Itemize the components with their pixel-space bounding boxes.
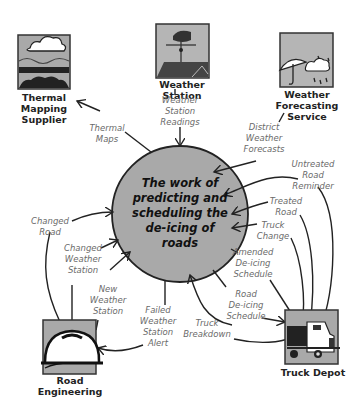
entity-weather-forecasting-service: Weather Forecasting Service (270, 89, 344, 122)
umbrella-rain-icon (280, 33, 333, 87)
landscape-clouds-icon (18, 35, 70, 89)
flow-label-changed-weather-station: Changed Weather Station (56, 243, 110, 276)
flow-label-treated-road: Treated Road (264, 196, 308, 218)
flow-label-changed-road: Changed Road (24, 216, 76, 238)
flow-label-truck-change: Truck Change (253, 220, 293, 242)
flow-label-weather-station-readings: Weather Station Readings (152, 95, 208, 128)
flow-label-new-weather-station: New Weather Station (82, 284, 134, 317)
flow-new-station-b (110, 252, 130, 270)
flow-truck-breakdown-b (234, 338, 290, 342)
hard-hat-icon (41, 320, 103, 374)
entity-thermal-mapping-supplier: Thermal Mapping Supplier (8, 92, 80, 125)
flow-label-truck-breakdown: Truck Breakdown (178, 318, 236, 340)
entity-road-engineering: Road Engineering (28, 375, 112, 397)
flow-label-failed-weather-station-alert: Failed Weather Station Alert (133, 305, 183, 349)
entity-truck-depot: Truck Depot (278, 367, 348, 378)
flow-label-thermal-maps: Thermal Maps (82, 123, 132, 145)
flow-changed-road-b (72, 212, 113, 221)
flow-untreated-down (318, 187, 333, 330)
weathervane-icon (156, 24, 209, 78)
flow-label-district-weather-forecasts: District Weather Forecasts (236, 122, 292, 155)
process-label: The work of predicting and scheduling th… (116, 176, 244, 251)
flow-treated-down (300, 215, 313, 325)
flow-label-amended-de-icing-schedule: Amended De-icing Schedule (226, 247, 280, 280)
flow-label-untreated-road-reminder: Untreated Road Reminder (283, 159, 343, 192)
truck-icon (285, 310, 340, 364)
flow-thermal-maps-b (77, 101, 100, 111)
flow-road-schedule-a (213, 270, 226, 287)
